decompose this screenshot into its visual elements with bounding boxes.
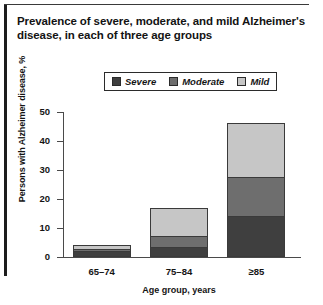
x-axis-title: Age group, years xyxy=(57,285,301,295)
legend-swatch-severe xyxy=(112,77,121,86)
x-tick-label-3: ≥85 xyxy=(211,266,301,277)
y-tick-label-20: 20 xyxy=(24,193,50,204)
bar-segment-mild[interactable] xyxy=(227,123,285,178)
y-tick-label-30: 30 xyxy=(24,164,50,175)
chart-title: Prevalence of severe, moderate, and mild… xyxy=(17,14,307,42)
legend-item-moderate[interactable]: Moderate xyxy=(169,76,224,87)
bar-3[interactable] xyxy=(227,121,285,257)
y-tick-label-40: 40 xyxy=(24,135,50,146)
legend-item-severe[interactable]: Severe xyxy=(112,76,156,87)
figure-left-rule xyxy=(4,4,7,276)
legend-swatch-moderate xyxy=(169,77,178,86)
bar-2[interactable] xyxy=(150,206,208,257)
legend-label-severe: Severe xyxy=(125,76,156,87)
y-tick-label-10: 10 xyxy=(24,222,50,233)
y-tick-label-0: 0 xyxy=(24,251,50,262)
bar-segment-severe[interactable] xyxy=(227,216,285,257)
legend-label-mild: Mild xyxy=(250,76,269,87)
legend-label-moderate: Moderate xyxy=(182,76,224,87)
bar-segment-severe[interactable] xyxy=(150,247,208,257)
legend-item-mild[interactable]: Mild xyxy=(237,76,269,87)
chart-legend: Severe Moderate Mild xyxy=(104,72,277,91)
bar-1[interactable] xyxy=(73,243,131,258)
y-tick-label-50: 50 xyxy=(24,106,50,117)
x-axis-line xyxy=(57,257,301,258)
plot-area xyxy=(63,112,295,257)
bar-segment-severe[interactable] xyxy=(73,251,131,257)
y-tick-0 xyxy=(57,257,63,258)
legend-swatch-mild xyxy=(237,77,246,86)
chart-figure: Prevalence of severe, moderate, and mild… xyxy=(0,0,323,305)
y-axis-title: Persons with Alzheimer disease, % xyxy=(17,44,27,214)
bar-segment-mild[interactable] xyxy=(150,208,208,237)
bar-segment-moderate[interactable] xyxy=(227,177,285,218)
figure-top-rule xyxy=(4,4,309,5)
